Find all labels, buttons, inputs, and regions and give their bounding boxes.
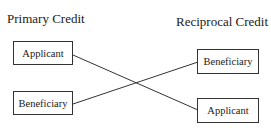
- primary-beneficiary-box: Beneficiary: [13, 91, 73, 115]
- reciprocal-beneficiary-box: Beneficiary: [197, 49, 259, 74]
- primary-applicant-box: Applicant: [13, 41, 73, 65]
- primary-credit-title: Primary Credit: [7, 11, 85, 27]
- box-label: Applicant: [207, 105, 248, 116]
- reciprocal-applicant-box: Applicant: [197, 98, 259, 123]
- box-label: Beneficiary: [19, 98, 68, 109]
- box-label: Beneficiary: [204, 56, 253, 67]
- box-label: Applicant: [22, 48, 63, 59]
- reciprocal-credit-title: Reciprocal Credit: [176, 14, 268, 30]
- connector-beneficiary-to-beneficiary: [73, 62, 198, 104]
